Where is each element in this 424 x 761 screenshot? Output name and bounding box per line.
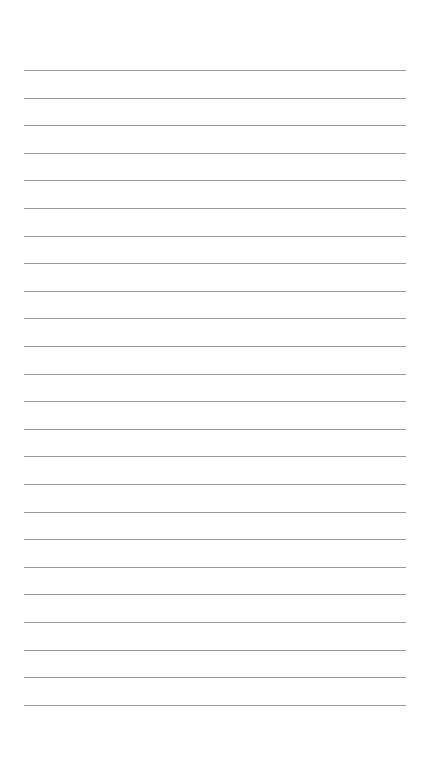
ruled-line	[24, 567, 406, 568]
ruled-line	[24, 456, 406, 457]
ruled-line	[24, 677, 406, 678]
ruled-line	[24, 374, 406, 375]
ruled-line	[24, 539, 406, 540]
ruled-line	[24, 705, 406, 706]
lined-paper-page	[0, 0, 424, 761]
ruled-line	[24, 291, 406, 292]
ruled-line	[24, 318, 406, 319]
ruled-line	[24, 429, 406, 430]
ruled-line	[24, 208, 406, 209]
ruled-line	[24, 650, 406, 651]
ruled-line	[24, 594, 406, 595]
ruled-line	[24, 180, 406, 181]
ruled-line	[24, 263, 406, 264]
ruled-line	[24, 236, 406, 237]
ruled-line	[24, 98, 406, 99]
ruled-line	[24, 125, 406, 126]
ruled-line	[24, 346, 406, 347]
ruled-line	[24, 622, 406, 623]
ruled-line	[24, 512, 406, 513]
ruled-line	[24, 401, 406, 402]
ruled-line	[24, 153, 406, 154]
ruled-line	[24, 70, 406, 71]
ruled-line	[24, 484, 406, 485]
